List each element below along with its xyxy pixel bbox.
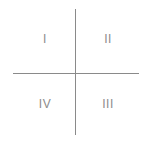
quadrant-label-top-right: II — [104, 33, 112, 45]
quadrant-label-bottom-right: III — [102, 98, 114, 110]
quadrant-label-top-left: I — [43, 33, 47, 45]
vertical-axis — [75, 9, 76, 135]
quadrant-label-bottom-left: IV — [39, 98, 51, 110]
horizontal-axis — [13, 73, 139, 74]
